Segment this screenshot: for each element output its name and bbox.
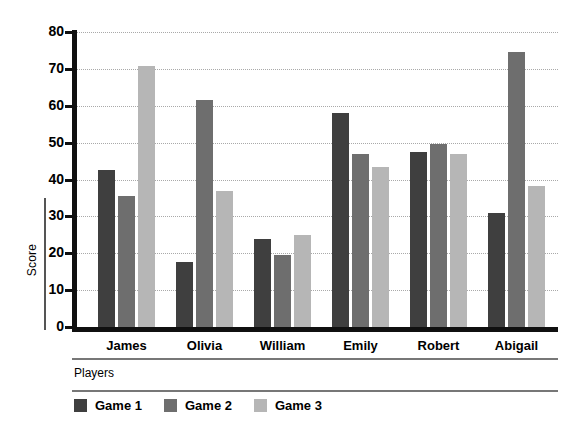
y-axis-tick-label: 10 bbox=[22, 282, 64, 296]
bar bbox=[274, 255, 291, 327]
x-label-top-divider bbox=[72, 358, 558, 360]
y-axis-tick bbox=[65, 105, 73, 108]
y-axis-tick bbox=[65, 142, 73, 145]
bar bbox=[254, 239, 271, 328]
y-axis-tick-label: 20 bbox=[22, 245, 64, 259]
plot-area bbox=[72, 30, 558, 330]
x-axis-category-label: Olivia bbox=[160, 338, 250, 353]
x-axis-spine bbox=[72, 327, 558, 332]
bar bbox=[528, 186, 545, 327]
bar bbox=[176, 262, 193, 327]
bar bbox=[372, 167, 389, 327]
bar bbox=[216, 191, 233, 327]
y-axis-tick-label: 70 bbox=[22, 61, 64, 75]
bar bbox=[138, 66, 155, 327]
legend-swatch-icon bbox=[164, 399, 177, 412]
x-axis-category-label: James bbox=[82, 338, 172, 353]
x-axis-category-label: Emily bbox=[316, 338, 406, 353]
y-axis-tick bbox=[65, 252, 73, 255]
y-axis-tick bbox=[65, 68, 73, 71]
bar bbox=[98, 170, 115, 327]
y-axis-tick-label: 50 bbox=[22, 135, 64, 149]
bar bbox=[294, 235, 311, 327]
bar bbox=[508, 52, 525, 327]
bar bbox=[430, 144, 447, 327]
bar bbox=[332, 113, 349, 327]
bar bbox=[488, 213, 505, 327]
y-axis-tick bbox=[65, 326, 73, 329]
x-axis-category-label: Robert bbox=[394, 338, 484, 353]
x-label-bottom-divider bbox=[72, 390, 558, 392]
legend-label: Game 3 bbox=[275, 398, 322, 413]
gridline bbox=[77, 32, 558, 33]
y-axis-tick bbox=[65, 215, 73, 218]
bar bbox=[410, 152, 427, 327]
y-axis-tick-label: 30 bbox=[22, 208, 64, 222]
legend-item[interactable]: Game 2 bbox=[164, 398, 232, 413]
bar bbox=[352, 154, 369, 327]
bar-chart-figure: Score 01020304050607080 JamesOliviaWilli… bbox=[0, 0, 588, 438]
bar bbox=[450, 154, 467, 327]
legend: Game 1Game 2Game 3 bbox=[74, 398, 344, 413]
legend-item[interactable]: Game 3 bbox=[254, 398, 322, 413]
x-axis-category-label: William bbox=[238, 338, 328, 353]
y-axis-tick bbox=[65, 289, 73, 292]
legend-label: Game 2 bbox=[185, 398, 232, 413]
y-axis-tick-label: 0 bbox=[22, 319, 64, 333]
y-axis-tick-label: 60 bbox=[22, 98, 64, 112]
x-axis-category-label: Abigail bbox=[472, 338, 562, 353]
y-axis-tick bbox=[65, 31, 73, 34]
x-axis-label: Players bbox=[74, 366, 114, 380]
y-axis-label-block: Score bbox=[22, 205, 42, 325]
legend-swatch-icon bbox=[254, 399, 267, 412]
y-axis-tick-label: 80 bbox=[22, 24, 64, 38]
bar bbox=[196, 100, 213, 327]
legend-label: Game 1 bbox=[95, 398, 142, 413]
y-axis-tick-label: 40 bbox=[22, 172, 64, 186]
legend-swatch-icon bbox=[74, 399, 87, 412]
legend-item[interactable]: Game 1 bbox=[74, 398, 142, 413]
y-axis-tick bbox=[65, 179, 73, 182]
bar bbox=[118, 196, 135, 327]
